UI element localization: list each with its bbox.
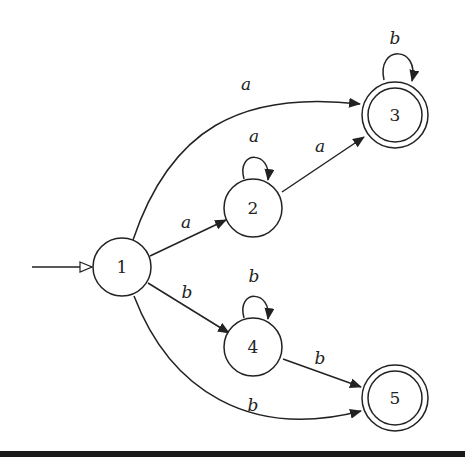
label-1-3: a [241, 74, 251, 94]
state-4: 4 [224, 318, 282, 376]
loop-4 [243, 296, 268, 319]
label-1-4: b [182, 282, 193, 302]
label-1-2: a [181, 212, 191, 232]
loop-2 [243, 157, 268, 180]
svg-text:5: 5 [390, 388, 401, 408]
label-3-3: b [390, 28, 401, 48]
state-1: 1 [93, 238, 151, 296]
svg-text:3: 3 [390, 105, 401, 125]
svg-text:1: 1 [117, 257, 128, 277]
label-1-5: b [248, 395, 259, 415]
diagram-svg: a a a a b b b b b 1 2 3 4 5 [0, 0, 465, 457]
svg-text:4: 4 [248, 337, 259, 357]
state-3-accepting: 3 [362, 82, 428, 148]
label-2-2: a [249, 126, 259, 146]
state-2: 2 [224, 179, 282, 237]
label-4-5: b [315, 348, 326, 368]
bottom-border-bar [0, 451, 465, 457]
state-5-accepting: 5 [362, 365, 428, 431]
svg-text:2: 2 [248, 198, 259, 218]
label-2-3: a [315, 136, 325, 156]
automaton-diagram: a a a a b b b b b 1 2 3 4 5 [0, 0, 465, 457]
label-4-4: b [249, 266, 260, 286]
loop-3 [383, 54, 413, 81]
